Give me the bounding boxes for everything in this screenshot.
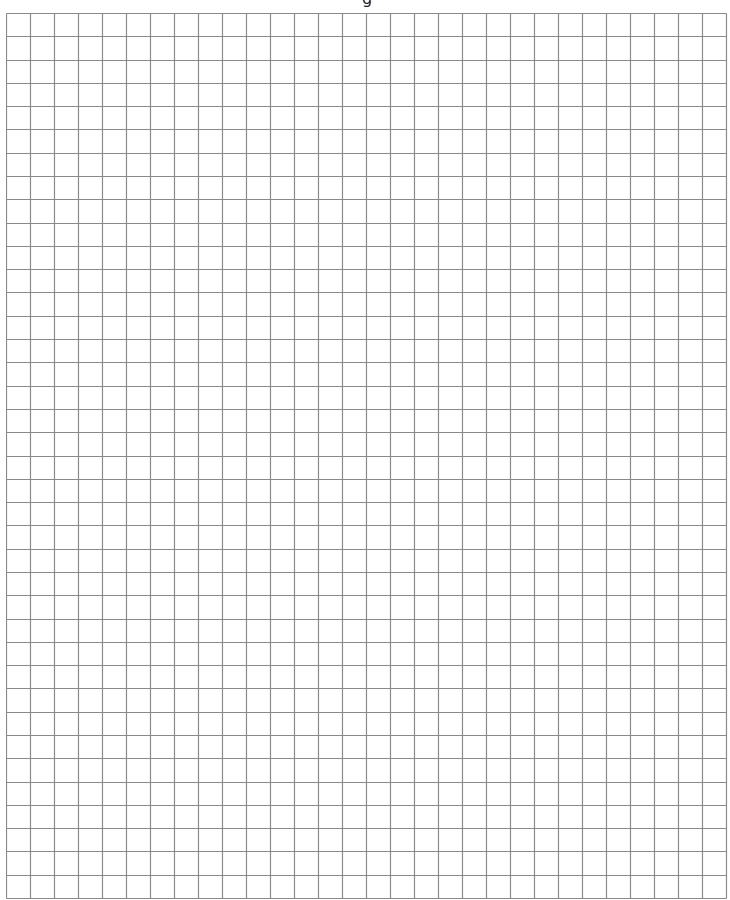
grid-lines: [6, 13, 728, 900]
graph-paper-page: g: [0, 0, 730, 900]
square-grid: [6, 13, 726, 898]
page-header-fragment: g: [362, 0, 372, 7]
